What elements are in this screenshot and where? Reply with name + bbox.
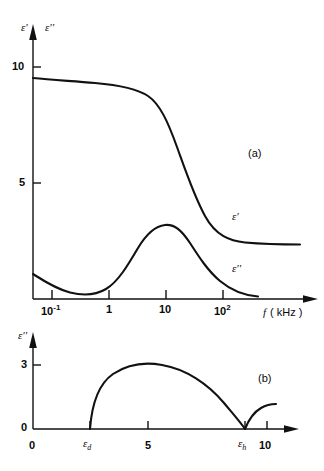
xtick-0p1-base: 10 <box>41 305 53 317</box>
panel-a-xtick-10: 10 <box>159 304 171 315</box>
xaxis-title-unit: ( kHz ) <box>270 306 302 318</box>
panel-a-ytick-10: 10 <box>12 61 24 72</box>
panel-b-x-axis <box>33 425 299 433</box>
eps-h-sub: h <box>242 443 246 452</box>
panel-b-ylabel: ε'' <box>18 330 27 341</box>
panel-a-xtick-100: 102 <box>214 304 231 317</box>
panel-a-ylabel-eps-real: ε' <box>21 22 28 33</box>
xtick-0p1-exp: -1 <box>53 303 60 312</box>
panel-b-xtick-eps-d: εd <box>83 438 91 452</box>
xtick-100-base: 10 <box>214 305 226 317</box>
panel-a-curve-label-eps-imag: ε'' <box>232 263 241 274</box>
eps-d-sub: d <box>87 443 91 452</box>
panel-a-ylabel-eps-imag: ε'' <box>45 22 54 33</box>
panel-a-x-axis <box>33 295 318 303</box>
figure-root: ε' ε'' 10 5 10-1 1 10 102 f ( kHz ) ε' ε… <box>0 0 324 471</box>
panel-a-ytick-5: 5 <box>19 177 25 188</box>
panel-a-tag: (a) <box>248 148 261 159</box>
curve-cole-cole-arc <box>90 364 245 429</box>
panel-a-y-ticks <box>33 67 41 183</box>
panel-a-curve-label-eps-real: ε' <box>232 211 239 222</box>
panel-b-xtick-10: 10 <box>259 440 271 451</box>
panel-b-tag: (b) <box>258 373 271 384</box>
panel-a-xaxis-title: f ( kHz ) <box>263 303 302 319</box>
panel-a-xtick-1: 1 <box>106 304 112 315</box>
panel-b-xtick-eps-h: εh <box>238 438 246 452</box>
xaxis-title-symbol: f <box>263 306 266 318</box>
panel-a-xtick-0p1: 10-1 <box>41 304 60 317</box>
panel-b-y-axis <box>29 332 37 429</box>
panel-a-plot <box>0 0 324 320</box>
xtick-100-exp: 2 <box>226 303 230 312</box>
panel-b-plot <box>0 320 324 471</box>
curve-hf-upturn <box>245 404 276 429</box>
panel-b-xtick-0: 0 <box>29 440 35 451</box>
panel-b-xtick-5: 5 <box>145 440 151 451</box>
curve-eps-real <box>33 78 300 245</box>
panel-b-ytick-3: 3 <box>21 359 27 370</box>
panel-a-y-axis <box>29 24 37 299</box>
panel-b-ytick-0: 0 <box>21 422 27 433</box>
